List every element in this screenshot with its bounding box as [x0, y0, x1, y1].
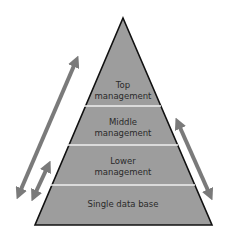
level-lower-label: Lower management	[63, 156, 183, 178]
short-left-arrow	[34, 166, 48, 196]
level-middle-label: Middle management	[63, 117, 183, 139]
level-base-line1: Single data base	[63, 199, 183, 210]
level-top-line2: management	[63, 91, 183, 102]
level-base-label: Single data base	[63, 199, 183, 210]
level-top-label: Top management	[63, 80, 183, 102]
level-lower-line2: management	[63, 167, 183, 178]
level-lower-line1: Lower	[63, 156, 183, 167]
level-middle-line1: Middle	[63, 117, 183, 128]
level-top-line1: Top	[63, 80, 183, 91]
level-middle-line2: management	[63, 128, 183, 139]
